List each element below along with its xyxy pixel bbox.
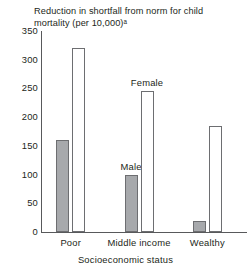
y-axis-ticks: 050100150200250300350 — [0, 0, 38, 273]
y-tick-label: 350 — [4, 26, 38, 35]
y-tick-label: 200 — [4, 112, 38, 121]
x-tick-label-middle-income: Middle income — [108, 238, 171, 248]
x-tick-label-wealthy: Wealthy — [190, 238, 225, 248]
bar-female-poor — [72, 48, 85, 232]
bar-female-wealthy — [209, 126, 222, 232]
bar-male-poor — [56, 140, 69, 232]
chart-figure: Reduction in shortfall from norm for chi… — [0, 0, 251, 273]
series-label-male: Male — [120, 162, 141, 171]
bar-female-middle-income — [141, 91, 154, 232]
x-tick-label-poor: Poor — [60, 238, 81, 248]
series-label-female: Female — [131, 78, 163, 87]
y-tick-label: 250 — [4, 83, 38, 92]
x-axis-title: Socioeconomic status — [0, 255, 251, 265]
bar-male-wealthy — [193, 221, 206, 232]
y-tick-label: 50 — [4, 198, 38, 207]
x-axis-line — [41, 232, 247, 233]
chart-title: Reduction in shortfall from norm for chi… — [34, 6, 246, 29]
y-tick-label: 100 — [4, 170, 38, 179]
y-tick-label: 150 — [4, 141, 38, 150]
bars-layer: MaleFemale — [42, 31, 247, 232]
y-tick-label: 300 — [4, 55, 38, 64]
bar-male-middle-income — [125, 175, 138, 232]
y-tick-label: 0 — [4, 227, 38, 236]
